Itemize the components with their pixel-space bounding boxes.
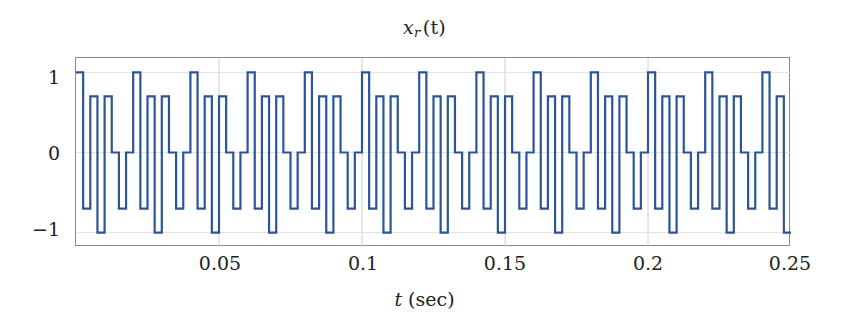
title-argument: (t) xyxy=(423,16,446,38)
xtick-label-0-05: 0.05 xyxy=(180,254,260,273)
waveform-svg xyxy=(76,58,791,247)
ytick-label-0: 0 xyxy=(14,144,60,163)
xaxis-variable: t xyxy=(394,288,402,310)
xaxis-label: t (sec) xyxy=(0,288,849,310)
xaxis-unit: (sec) xyxy=(408,288,454,310)
signal-waveform xyxy=(76,72,791,232)
xtick-label-0-1: 0.1 xyxy=(323,254,403,273)
title-subscript: r xyxy=(414,25,421,40)
xtick-label-0-15: 0.15 xyxy=(465,254,545,273)
figure-container: xr (t) 1 0 −1 0.05 0.1 0.15 0.2 0.25 t (… xyxy=(0,0,849,326)
ytick-label-1: 1 xyxy=(14,68,60,87)
title-variable: x xyxy=(403,16,414,38)
xtick-label-0-25: 0.25 xyxy=(750,254,830,273)
xtick-label-0-2: 0.2 xyxy=(608,254,688,273)
plot-area xyxy=(75,57,790,246)
ytick-label-minus1: −1 xyxy=(14,220,60,239)
chart-title: xr (t) xyxy=(0,16,849,40)
